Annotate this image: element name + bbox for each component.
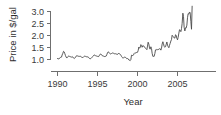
x-axis-title: Year [123, 96, 142, 107]
y-tick-label-3.0: 3.0 [31, 7, 44, 17]
line-chart: 3.0 2.5 2.0 1.5 1.0 Price in $/gal 1990 … [0, 0, 221, 115]
y-tick-label-2.5: 2.5 [31, 19, 44, 29]
chart-figure: 3.0 2.5 2.0 1.5 1.0 Price in $/gal 1990 … [0, 0, 221, 115]
y-axis-title: Price in $/gal [7, 7, 18, 62]
x-tick-label-1990: 1990 [47, 79, 67, 89]
x-tick-label-2000: 2000 [127, 79, 147, 89]
y-tick-label-1.0: 1.0 [31, 55, 44, 65]
y-tick-label-1.5: 1.5 [31, 43, 44, 53]
x-tick-label-2005: 2005 [167, 79, 187, 89]
y-tick-label-2.0: 2.0 [31, 31, 44, 41]
x-tick-label-1995: 1995 [87, 79, 107, 89]
